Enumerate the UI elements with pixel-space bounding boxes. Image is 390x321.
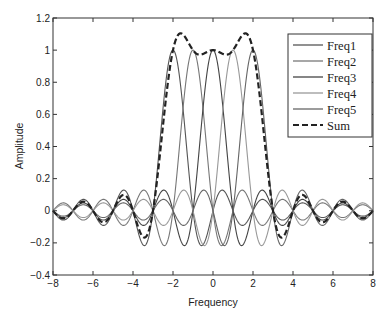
- legend: Freq1Freq2Freq3Freq4Freq5Sum: [288, 34, 372, 137]
- y-tick-label: 0.8: [36, 77, 50, 88]
- legend-label-freq3: Freq3: [327, 71, 356, 85]
- x-tick-label: 2: [250, 278, 256, 289]
- y-tick-label: −0.2: [30, 237, 50, 248]
- y-tick-label: 1.2: [36, 13, 50, 24]
- y-tick-label: 0: [44, 205, 50, 216]
- x-tick-label: −6: [87, 278, 99, 289]
- x-tick-label: 0: [210, 278, 216, 289]
- x-tick-label: 8: [370, 278, 376, 289]
- y-tick-label: 0.6: [36, 109, 50, 120]
- y-tick-label: −0.4: [30, 270, 50, 281]
- y-tick-label: 0.4: [36, 141, 50, 152]
- y-tick-label: 1: [44, 45, 50, 56]
- legend-label-sum: Sum: [327, 119, 350, 133]
- legend-label-freq1: Freq1: [327, 39, 356, 53]
- x-tick-label: 4: [290, 278, 296, 289]
- legend-label-freq4: Freq4: [327, 87, 357, 101]
- legend-label-freq2: Freq2: [327, 55, 356, 69]
- x-tick-label: 6: [330, 278, 336, 289]
- x-axis-label: Frequency: [188, 296, 238, 308]
- y-tick-label: 0.2: [36, 173, 50, 184]
- legend-label-freq5: Freq5: [327, 103, 356, 117]
- x-tick-label: −2: [167, 278, 179, 289]
- y-axis-label: Amplitude: [13, 123, 25, 170]
- x-tick-label: −4: [127, 278, 139, 289]
- sinc-chart: −8−6−4−202468−0.4−0.200.20.40.60.811.2 F…: [0, 0, 390, 321]
